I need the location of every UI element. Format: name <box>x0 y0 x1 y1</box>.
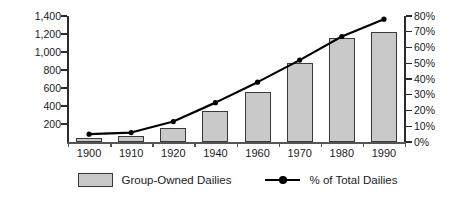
legend-label-percent-of-total-dailies: % of Total Dailies <box>309 174 397 186</box>
right-tick-label: 30% <box>414 89 435 100</box>
line-point-1900 <box>86 132 91 137</box>
right-tick-label: 0% <box>414 137 429 148</box>
legend-line-point-icon <box>265 173 300 187</box>
left-tick-mark <box>61 51 67 52</box>
right-tick-label: 20% <box>414 105 435 116</box>
line-point-1980 <box>339 34 344 39</box>
right-tick-label: 70% <box>414 26 435 37</box>
right-tick-label: 50% <box>414 58 435 69</box>
left-tick-label: 1,200 <box>35 29 61 40</box>
left-tick-mark <box>61 105 67 106</box>
left-tick-label: 400 <box>43 101 61 112</box>
legend-item-percent-of-total-dailies: % of Total Dailies <box>265 173 397 187</box>
right-tick-label: 40% <box>414 74 435 85</box>
right-tick-mark <box>406 94 412 95</box>
right-tick-mark <box>406 63 412 64</box>
legend-label-group-owned-dailies: Group-Owned Dailies <box>122 174 232 186</box>
right-tick-mark <box>406 141 412 142</box>
left-tick-mark <box>61 15 67 16</box>
left-tick-label: 800 <box>43 65 61 76</box>
x-axis-label-1940: 1940 <box>194 146 236 162</box>
left-tick-label: 200 <box>43 119 61 130</box>
right-tick-label: 80% <box>414 11 435 22</box>
right-tick-mark <box>406 126 412 127</box>
right-tick-mark <box>406 15 412 16</box>
x-axis-label-1980: 1980 <box>321 146 363 162</box>
x-axis-label-1900: 1900 <box>68 146 110 162</box>
line-point-1940 <box>213 100 218 105</box>
left-tick-label: 600 <box>43 83 61 94</box>
x-axis-separator <box>405 142 406 147</box>
x-axis-label-1970: 1970 <box>279 146 321 162</box>
left-tick-label: 1,400 <box>35 11 61 22</box>
plot-area <box>68 16 405 142</box>
legend-item-group-owned-dailies: Group-Owned Dailies <box>78 173 232 187</box>
x-axis-label-1990: 1990 <box>363 146 405 162</box>
line-point-1970 <box>297 58 302 63</box>
right-tick-label: 10% <box>414 121 435 132</box>
x-axis-label-1910: 1910 <box>110 146 152 162</box>
left-tick-mark <box>61 33 67 34</box>
line-point-1920 <box>171 119 176 124</box>
chart-legend: Group-Owned Dailies % of Total Dailies <box>0 168 475 192</box>
chart-container: 2004006008001,0001,2001,400 0%10%20%30%4… <box>0 0 475 201</box>
line-point-1990 <box>381 17 386 22</box>
right-tick-mark <box>406 31 412 32</box>
legend-swatch-icon <box>78 173 113 187</box>
left-tick-mark <box>61 87 67 88</box>
left-tick-mark <box>61 69 67 70</box>
x-axis-labels: 19001910192019401960197019801990 <box>68 146 405 162</box>
right-tick-mark <box>406 78 412 79</box>
line-point-1960 <box>255 80 260 85</box>
line-point-1910 <box>129 130 134 135</box>
x-axis-label-1960: 1960 <box>237 146 279 162</box>
right-tick-label: 60% <box>414 42 435 53</box>
x-axis-label-1920: 1920 <box>152 146 194 162</box>
right-tick-mark <box>406 110 412 111</box>
line-series-percent-of-total-dailies <box>68 16 405 142</box>
left-tick-label: 1,000 <box>35 47 61 58</box>
left-tick-mark <box>61 123 67 124</box>
right-tick-mark <box>406 47 412 48</box>
